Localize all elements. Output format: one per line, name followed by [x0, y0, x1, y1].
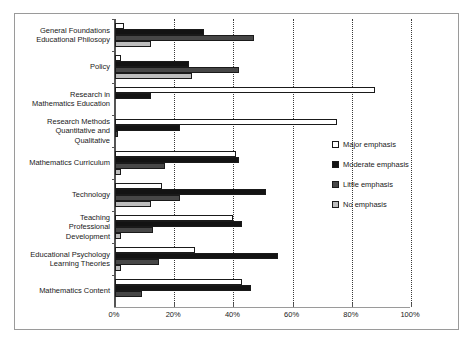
bar-group	[115, 243, 410, 275]
x-axis-tick	[411, 303, 412, 307]
x-axis-tick-label: 60%	[284, 310, 299, 319]
y-axis-category-label: Mathematics Content	[10, 286, 110, 295]
y-axis-category-label: Research Methods Quantitative and Qualit…	[10, 117, 110, 145]
bar-major	[115, 87, 375, 93]
bar-no	[115, 265, 121, 271]
x-axis-tick-label: 80%	[343, 310, 358, 319]
x-axis-tick-label: 40%	[225, 310, 240, 319]
bar-no	[115, 73, 192, 79]
legend-item: Moderate emphasis	[332, 154, 454, 174]
legend-label: No emphasis	[343, 200, 387, 209]
y-axis-category-labels: General Foundations Educational Philosop…	[10, 19, 110, 307]
bar-moderate	[115, 93, 151, 99]
x-axis-tick-label: 100%	[400, 310, 419, 319]
x-axis-tick-label: 20%	[166, 310, 181, 319]
x-axis-tick-label: 0%	[109, 310, 120, 319]
legend-item: Little emphasis	[332, 174, 454, 194]
bar-no	[115, 201, 151, 207]
bar-group	[115, 211, 410, 243]
x-axis-line	[114, 307, 410, 308]
bar-little	[115, 291, 142, 297]
legend-swatch-icon	[332, 161, 339, 168]
y-axis-tick	[112, 83, 115, 84]
y-axis-category-label: Teaching Professional Development	[10, 213, 110, 241]
bar-little	[115, 131, 118, 137]
y-axis-tick	[112, 19, 115, 20]
bar-little	[115, 163, 165, 169]
legend-item: Major emphasis	[332, 134, 454, 154]
bar-chart: General Foundations Educational Philosop…	[0, 0, 473, 343]
bar-no	[115, 169, 121, 175]
bar-moderate	[115, 125, 180, 131]
chart-legend: Major emphasisModerate emphasisLittle em…	[332, 134, 454, 214]
legend-label: Little emphasis	[343, 180, 393, 189]
bar-group	[115, 83, 410, 115]
y-axis-tick	[112, 179, 115, 180]
bar-group	[115, 19, 410, 51]
y-axis-tick	[112, 51, 115, 52]
legend-swatch-icon	[332, 181, 339, 188]
legend-label: Moderate emphasis	[343, 160, 409, 169]
legend-swatch-icon	[332, 201, 339, 208]
y-axis-category-label: Educational Psychology Learning Theories	[10, 250, 110, 268]
bar-little	[115, 259, 159, 265]
y-axis-tick	[112, 243, 115, 244]
bar-no	[115, 233, 121, 239]
y-axis-tick	[112, 211, 115, 212]
y-axis-category-label: General Foundations Educational Philosop…	[10, 26, 110, 44]
y-axis-tick	[112, 147, 115, 148]
bar-group	[115, 275, 410, 307]
y-axis-category-label: Technology	[10, 190, 110, 199]
bar-no	[115, 41, 151, 47]
y-axis-tick	[112, 275, 115, 276]
legend-swatch-icon	[332, 141, 339, 148]
y-axis-category-label: Mathematics Curriculum	[10, 158, 110, 167]
bar-group	[115, 51, 410, 83]
y-axis-category-label: Policy	[10, 62, 110, 71]
y-axis-category-label: Research in Mathematics Education	[10, 90, 110, 108]
y-axis-tick	[112, 115, 115, 116]
legend-label: Major emphasis	[343, 140, 396, 149]
legend-item: No emphasis	[332, 194, 454, 214]
